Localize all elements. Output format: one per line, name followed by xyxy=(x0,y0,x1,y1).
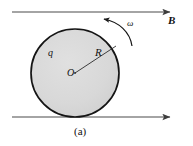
magnetic-field-label: B xyxy=(168,15,175,26)
charge-label: q xyxy=(48,48,53,58)
physics-figure: B ω q R O (a) xyxy=(0,0,193,146)
radius-label: R xyxy=(95,47,102,58)
center-label: O xyxy=(67,68,74,78)
angular-velocity-label: ω xyxy=(127,19,133,28)
figure-caption: (a) xyxy=(74,126,86,137)
center-point xyxy=(74,72,76,74)
figure-drawing xyxy=(0,0,193,146)
